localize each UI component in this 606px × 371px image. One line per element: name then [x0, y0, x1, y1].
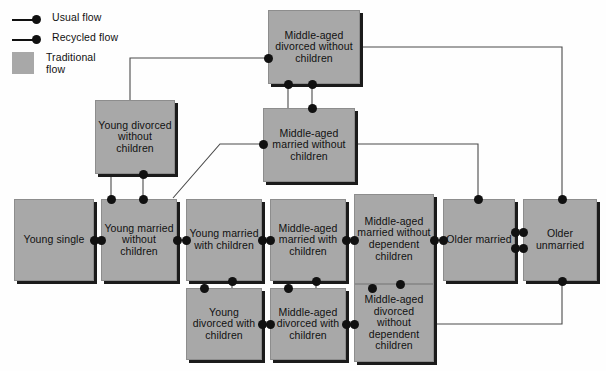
flow-junction-dot: [182, 236, 191, 245]
flow-junction-dot: [308, 104, 317, 113]
node-mam_wo_ch[interactable]: Middle-aged married without children: [263, 108, 355, 182]
flow-junction-dot: [284, 284, 293, 293]
family-life-cycle-diagram: Usual flow Recycled flow Traditional flo…: [0, 0, 606, 371]
node-o_married[interactable]: Older married: [443, 199, 515, 281]
traditional-flow-swatch-icon: [12, 52, 34, 74]
legend: Usual flow Recycled flow Traditional flo…: [12, 12, 162, 80]
flow-junction-dot: [312, 277, 321, 286]
flow-junction-dot: [350, 320, 359, 329]
flow-junction-dot: [259, 140, 268, 149]
node-label: Middle-aged divorced without dependent c…: [357, 294, 431, 352]
legend-item-recycled-flow: Recycled flow: [12, 32, 162, 47]
node-ym_wo_ch[interactable]: Young married without children: [101, 199, 177, 281]
flow-junction-dot: [308, 80, 317, 89]
flow-junction-dot: [228, 277, 237, 286]
node-label: Young divorced with children: [189, 307, 259, 342]
node-label: Middle-aged divorced with children: [273, 307, 343, 342]
node-label: Older unmarried: [526, 228, 594, 251]
flow-junction-dot: [264, 54, 273, 63]
flow-junction-dot: [139, 170, 148, 179]
node-label: Middle-aged married without dependent ch…: [357, 216, 431, 262]
flow-junction-dot: [139, 195, 148, 204]
flow-junction-dot: [519, 244, 528, 253]
legend-label-traditional-flow: Traditional flow: [46, 52, 104, 75]
flow-junction-dot: [350, 236, 359, 245]
flow-junction-dot: [558, 195, 567, 204]
legend-label-usual-flow: Usual flow: [52, 12, 101, 24]
node-label: Young married without children: [104, 223, 174, 258]
node-yd_wo_ch[interactable]: Young divorced without children: [95, 100, 175, 174]
node-mad_w_ch[interactable]: Middle-aged divorced with children: [270, 288, 346, 360]
node-label: Middle-aged married without children: [266, 128, 352, 163]
legend-label-recycled-flow: Recycled flow: [52, 32, 118, 44]
flow-junction-dot: [368, 284, 377, 293]
node-label: Young married with children: [189, 228, 259, 251]
flow-junction-dot: [519, 228, 528, 237]
flow-junction-dot: [266, 320, 275, 329]
legend-item-traditional-flow: Traditional flow: [12, 52, 162, 75]
node-label: Middle-aged divorced without children: [271, 30, 357, 65]
flow-junction-dot: [558, 277, 567, 286]
node-y_single[interactable]: Young single: [14, 199, 94, 281]
flow-junction-dot: [474, 195, 483, 204]
node-label: Middle-aged married with children: [273, 223, 343, 258]
legend-item-usual-flow: Usual flow: [12, 12, 162, 27]
recycled-flow-marker-icon: [12, 33, 46, 47]
flow-junction-dot: [439, 236, 448, 245]
node-mam_w_ch[interactable]: Middle-aged married with children: [270, 199, 346, 281]
flow-junction-dot: [430, 236, 439, 245]
flow-junction-dot: [200, 284, 209, 293]
node-yd_w_ch[interactable]: Young divorced with children: [186, 288, 262, 360]
flow-junction-dot: [266, 236, 275, 245]
node-label: Young divorced without children: [98, 120, 172, 155]
node-label: Young single: [24, 234, 85, 246]
usual-flow-marker-icon: [12, 13, 46, 27]
flow-junction-dot: [173, 236, 182, 245]
node-mad_wo_ch[interactable]: Middle-aged divorced without children: [268, 10, 360, 84]
flow-junction-dot: [107, 195, 116, 204]
node-o_unmar[interactable]: Older unmarried: [523, 199, 597, 281]
flow-junction-dot: [284, 80, 293, 89]
node-mam_wo_dep[interactable]: Middle-aged married without dependent ch…: [354, 194, 434, 284]
node-label: Older married: [446, 234, 511, 246]
flow-junction-dot: [97, 236, 106, 245]
node-ym_w_ch[interactable]: Young married with children: [186, 199, 262, 281]
flow-junction-dot: [396, 280, 405, 289]
node-mad_wo_dep[interactable]: Middle-aged divorced without dependent c…: [354, 284, 434, 362]
